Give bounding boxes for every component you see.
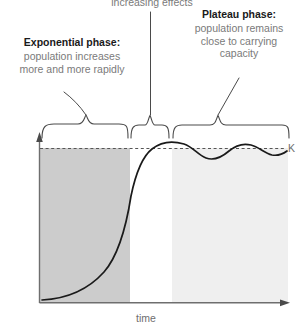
brace-exponential-phase [42,115,128,138]
callout-exponential-line-1: population increases [2,50,142,63]
region-plateau-shading [172,148,288,303]
x-axis-label: time [136,312,156,324]
callout-plateau-line-3: capacity [176,47,302,60]
callout-plateau-line-2: close to carrying [176,35,302,48]
callout-exponential-phase: Exponential phase: population increases … [2,36,142,75]
leader-line-plateau [218,78,239,115]
callout-exponential-title: Exponential phase: [2,36,142,49]
carrying-capacity-label: K [288,142,295,154]
logistic-growth-figure: increasing effects Exponential phase: po… [0,0,304,335]
leader-line-exponential [64,92,86,115]
callout-plateau-title: Plateau phase: [176,8,302,21]
callout-plateau-line-1: population remains [176,22,302,35]
callout-exponential-line-2: more and more rapidly [2,63,142,76]
brace-plateau-phase [173,116,289,139]
region-exponential-shading [40,148,130,303]
callout-plateau-phase: Plateau phase: population remains close … [176,8,302,60]
brace-transition-phase [131,116,169,139]
